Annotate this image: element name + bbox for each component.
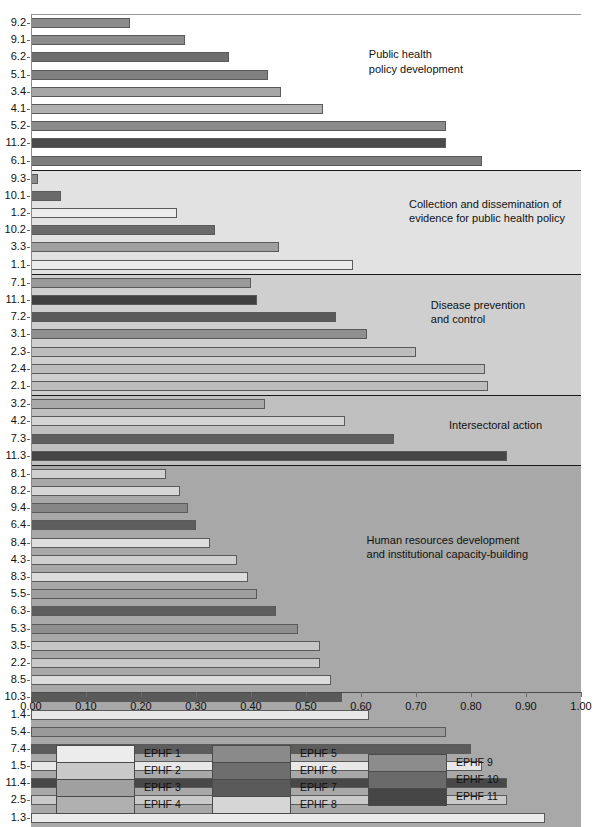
- chart-row: 8.4: [31, 535, 581, 552]
- bar[interactable]: [31, 191, 61, 201]
- bar[interactable]: [31, 606, 276, 616]
- legend-swatch[interactable]: [369, 755, 446, 772]
- legend-swatch-box: [56, 745, 135, 814]
- bar[interactable]: [31, 138, 446, 148]
- bar[interactable]: [31, 295, 257, 305]
- legend-swatch-box: [368, 754, 447, 806]
- bar[interactable]: [31, 329, 367, 339]
- bar[interactable]: [31, 225, 215, 235]
- y-axis-tick-label: 3.4: [11, 85, 26, 97]
- y-axis-tick-mark: [27, 646, 30, 647]
- legend-swatch[interactable]: [369, 772, 446, 789]
- bar[interactable]: [31, 503, 188, 513]
- y-axis-tick-mark: [27, 474, 30, 475]
- bar[interactable]: [31, 641, 320, 651]
- legend-label: EPHF 10: [456, 771, 499, 788]
- chart-row: 2.2: [31, 655, 581, 672]
- bar[interactable]: [31, 35, 185, 45]
- y-axis-tick-mark: [27, 715, 30, 716]
- chart-row: 4.1: [31, 101, 581, 118]
- y-axis-tick-label: 5.2: [11, 119, 26, 131]
- bar[interactable]: [31, 572, 248, 582]
- chart-section: Intersectoral action3.24.27.311.3: [31, 395, 581, 465]
- y-axis-tick-mark: [27, 611, 30, 612]
- y-axis-tick-label: 7.3: [11, 432, 26, 444]
- legend-label: EPHF 9: [456, 754, 499, 771]
- legend-swatch[interactable]: [57, 746, 134, 763]
- bar[interactable]: [31, 469, 166, 479]
- plot-area: Public health policy development9.29.16.…: [31, 14, 581, 692]
- x-axis-tick-label: 0.30: [185, 700, 206, 712]
- legend-swatch[interactable]: [213, 763, 290, 780]
- bar[interactable]: [31, 624, 298, 634]
- x-axis-tick-mark: [196, 692, 197, 697]
- bar[interactable]: [31, 242, 279, 252]
- bar[interactable]: [31, 312, 336, 322]
- bar[interactable]: [31, 104, 323, 114]
- y-axis-line: [31, 14, 32, 692]
- legend-swatch[interactable]: [213, 746, 290, 763]
- bar[interactable]: [31, 87, 281, 97]
- y-axis-tick-mark: [27, 439, 30, 440]
- y-axis-tick-mark: [27, 57, 30, 58]
- bar[interactable]: [31, 416, 345, 426]
- x-axis-tick-label: 0.20: [130, 700, 151, 712]
- y-axis-tick-mark: [27, 404, 30, 405]
- bar[interactable]: [31, 658, 320, 668]
- bar[interactable]: [31, 278, 251, 288]
- legend-swatch[interactable]: [57, 780, 134, 797]
- bar[interactable]: [31, 347, 416, 357]
- bar[interactable]: [31, 260, 353, 270]
- legend-swatch[interactable]: [57, 797, 134, 813]
- chart-row: 10.2: [31, 222, 581, 239]
- bar[interactable]: [31, 451, 507, 461]
- bar[interactable]: [31, 486, 180, 496]
- bar[interactable]: [31, 434, 394, 444]
- legend-swatch[interactable]: [57, 763, 134, 780]
- bar[interactable]: [31, 70, 268, 80]
- x-axis-tick-label: 0.10: [75, 700, 96, 712]
- y-axis-tick-label: 8.3: [11, 570, 26, 582]
- bar[interactable]: [31, 381, 488, 391]
- y-axis-tick-mark: [27, 421, 30, 422]
- y-axis-tick-label: 7.2: [11, 310, 26, 322]
- chart-row: 5.3: [31, 621, 581, 638]
- bar[interactable]: [31, 208, 177, 218]
- x-axis-tick-label: 0.90: [515, 700, 536, 712]
- chart-row: 6.2: [31, 49, 581, 66]
- bar[interactable]: [31, 589, 257, 599]
- y-axis-tick-label: 1.1: [11, 258, 26, 270]
- bar[interactable]: [31, 399, 265, 409]
- y-axis-tick-mark: [27, 386, 30, 387]
- y-axis-tick-label: 8.4: [11, 536, 26, 548]
- y-axis-tick-mark: [27, 560, 30, 561]
- legend-label: EPHF 8: [300, 796, 337, 813]
- y-axis-tick-mark: [27, 75, 30, 76]
- bar[interactable]: [31, 520, 196, 530]
- chart-row: 8.1: [31, 466, 581, 483]
- y-axis-tick-mark: [27, 126, 30, 127]
- bar[interactable]: [31, 555, 237, 565]
- bar[interactable]: [31, 121, 446, 131]
- y-axis-tick-label: 6.2: [11, 50, 26, 62]
- chart-legend: EPHF 1EPHF 2EPHF 3EPHF 4EPHF 5EPHF 6EPHF…: [0, 733, 606, 823]
- chart-row: 7.1: [31, 275, 581, 292]
- chart-row: 7.3: [31, 431, 581, 448]
- y-axis-tick-label: 3.1: [11, 327, 26, 339]
- bar[interactable]: [31, 52, 229, 62]
- bar[interactable]: [31, 364, 485, 374]
- y-axis-tick-mark: [27, 247, 30, 248]
- legend-swatch-box: [212, 745, 291, 814]
- chart-row: 6.3: [31, 603, 581, 620]
- legend-swatch[interactable]: [213, 780, 290, 797]
- legend-swatch[interactable]: [369, 789, 446, 805]
- legend-label: EPHF 1: [144, 745, 181, 762]
- legend-swatch[interactable]: [213, 797, 290, 813]
- legend-label: EPHF 11: [456, 788, 499, 805]
- bar[interactable]: [31, 675, 331, 685]
- bar[interactable]: [31, 156, 482, 166]
- bar[interactable]: [31, 18, 130, 28]
- x-axis-tick-mark: [581, 692, 582, 697]
- chart-row: 4.2: [31, 413, 581, 430]
- bar[interactable]: [31, 538, 210, 548]
